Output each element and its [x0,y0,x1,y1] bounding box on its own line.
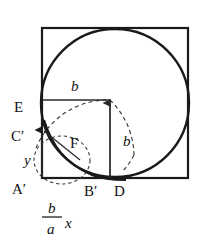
fraction-numerator: b [48,200,56,216]
label-F: F [70,135,78,151]
label-B-prime: B′ [84,183,97,199]
label-b-top: b [71,78,79,94]
fraction-denominator: a [47,221,55,237]
label-E: E [14,99,23,115]
dashed-arc-radius-b-lower [122,155,134,172]
geometry-figure: E C′ F A′ B′ D y b b b a x [0,0,214,246]
figure-canvas: E C′ F A′ B′ D y b b b a x [0,0,214,246]
label-D: D [114,183,125,199]
label-b-right: b [123,133,131,149]
label-y: y [22,152,31,168]
fraction-variable: x [64,215,72,231]
label-slope-fraction: b a x [42,200,72,237]
label-A-prime: A′ [12,181,26,197]
label-C-prime: C′ [11,128,24,144]
